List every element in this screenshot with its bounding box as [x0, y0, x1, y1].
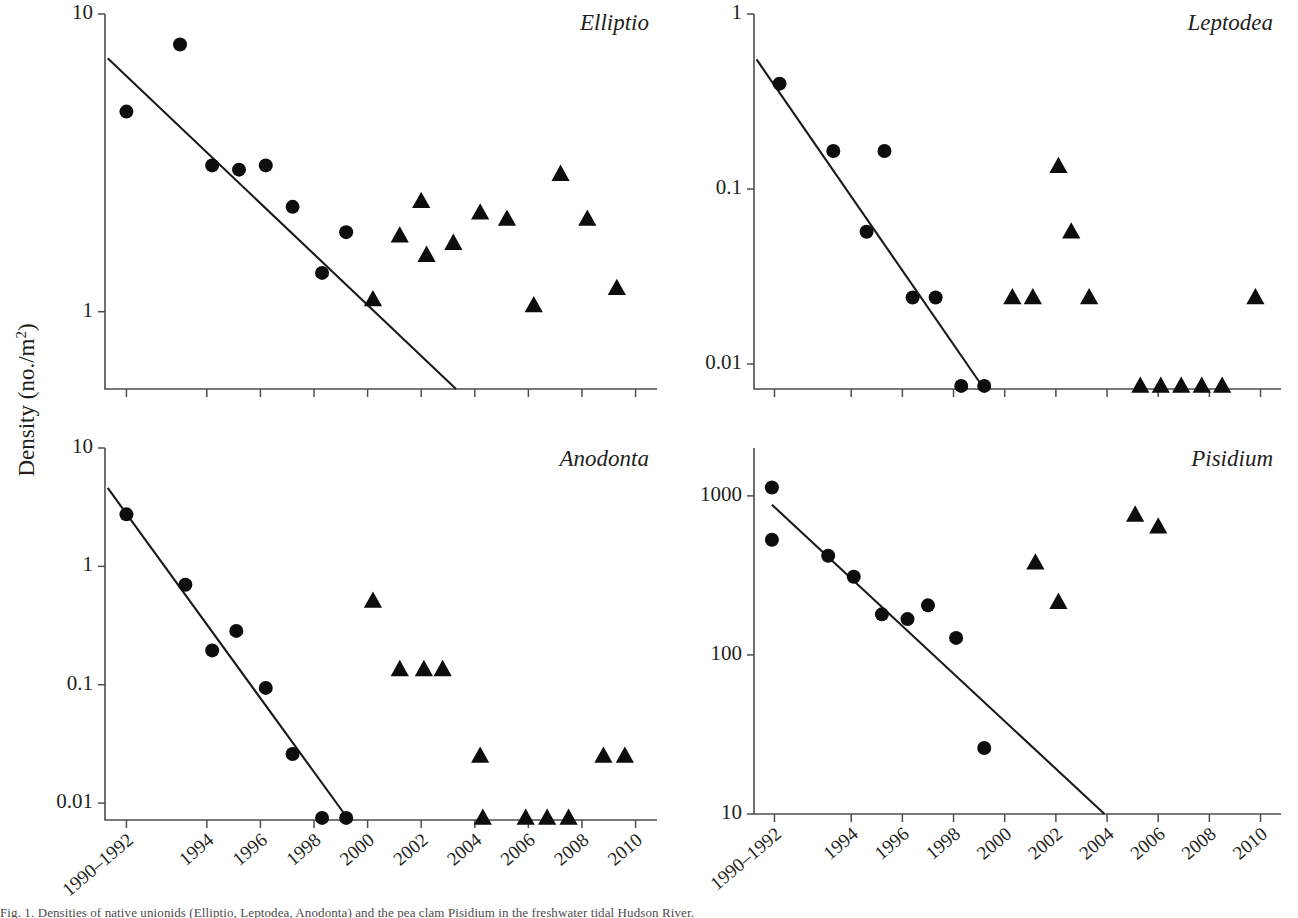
data-point-triangle [1152, 376, 1170, 392]
data-point-circle [173, 37, 187, 51]
data-point-triangle [538, 808, 556, 824]
data-point-circle [821, 549, 835, 563]
data-point-triangle [517, 808, 535, 824]
axis-lines [105, 448, 657, 820]
x-tick-label: 1990–1992 [706, 823, 785, 894]
y-tick-label: 0.01 [705, 350, 742, 374]
y-tick-label: 10 [721, 800, 742, 824]
axis-lines [754, 14, 1281, 389]
data-point-circle [339, 225, 353, 239]
data-point-triangle [1213, 376, 1231, 392]
panel-elliptio: 101Elliptio [72, 0, 657, 397]
x-tick-label: 2002 [1024, 823, 1067, 864]
y-tick-label: 1 [83, 298, 94, 322]
data-point-circle [259, 158, 273, 172]
y-tick-label: 10 [72, 434, 93, 458]
data-point-circle [977, 741, 991, 755]
data-point-triangle [525, 296, 543, 312]
data-point-circle [826, 144, 840, 158]
data-point-triangle [1049, 157, 1067, 173]
x-tick-label: 2004 [443, 829, 486, 870]
regression-line [772, 505, 1105, 814]
data-point-triangle [594, 747, 612, 763]
data-point-circle [765, 533, 779, 547]
data-point-triangle [1246, 288, 1264, 304]
data-point-triangle [471, 747, 489, 763]
data-point-circle [906, 290, 920, 304]
axis-lines [754, 448, 1281, 814]
data-point-triangle [364, 290, 382, 306]
data-point-triangle [415, 660, 433, 676]
data-point-circle [929, 290, 943, 304]
data-point-triangle [1149, 517, 1167, 533]
axis-lines [105, 14, 657, 389]
data-point-triangle [616, 747, 634, 763]
x-tick-label: 1990–1992 [58, 829, 137, 900]
data-point-triangle [1193, 376, 1211, 392]
x-tick-label: 2006 [1126, 823, 1169, 864]
x-tick-label: 2010 [1228, 823, 1271, 864]
panel-title: Elliptio [579, 10, 649, 35]
y-tick-label: 1000 [700, 482, 742, 506]
x-tick-label: 2008 [550, 829, 593, 870]
x-tick-label: 2000 [336, 829, 379, 870]
data-point-triangle [364, 591, 382, 607]
y-axis-title-superscript: 2 [13, 331, 29, 339]
data-point-circle [315, 811, 329, 825]
data-point-circle [232, 163, 246, 177]
data-point-triangle [391, 226, 409, 242]
data-point-triangle [551, 165, 569, 181]
data-point-triangle [434, 660, 452, 676]
panel-title: Anodonta [558, 446, 649, 471]
x-tick-label: 2010 [604, 829, 647, 870]
y-axis-title-close: ) [14, 323, 39, 331]
figure-root: 101Elliptio10.10.01Leptodea1010.10.01199… [0, 0, 1298, 918]
data-point-circle [229, 624, 243, 638]
data-point-triangle [559, 808, 577, 824]
data-point-triangle [608, 279, 626, 295]
x-tick-label: 2008 [1177, 823, 1220, 864]
data-point-circle [765, 480, 779, 494]
x-tick-label: 1994 [175, 829, 218, 870]
data-point-circle [205, 643, 219, 657]
data-point-circle [205, 158, 219, 172]
panel-title: Pisidium [1190, 446, 1273, 471]
data-point-circle [286, 747, 300, 761]
data-point-circle [954, 379, 968, 393]
data-point-circle [949, 631, 963, 645]
x-tick-label: 1996 [870, 823, 913, 864]
y-axis-title-main: Density (no./m [14, 338, 39, 476]
data-point-circle [900, 612, 914, 626]
data-point-circle [860, 225, 874, 239]
x-tick-label: 1994 [819, 823, 862, 864]
panel-title: Leptodea [1186, 10, 1273, 35]
panel-pisidium: 1000100101990–19921994199619982000200220… [700, 446, 1281, 894]
regression-line [757, 59, 985, 389]
data-point-circle [977, 379, 991, 393]
y-tick-label: 1 [732, 0, 743, 24]
y-tick-label: 10 [72, 0, 93, 24]
x-tick-label: 1998 [282, 829, 325, 870]
data-point-circle [315, 266, 329, 280]
y-axis-title: Density (no./m2) [13, 323, 39, 476]
y-axis-title-group: Density (no./m2) [13, 323, 39, 476]
data-point-triangle [471, 203, 489, 219]
data-point-circle [119, 507, 133, 521]
x-tick-label: 2000 [973, 823, 1016, 864]
regression-line [108, 488, 349, 820]
data-point-triangle [1062, 222, 1080, 238]
data-point-circle [921, 598, 935, 612]
data-point-circle [773, 77, 787, 91]
y-tick-label: 0.1 [716, 175, 742, 199]
data-point-circle [119, 105, 133, 119]
data-point-triangle [578, 209, 596, 225]
y-tick-label: 100 [711, 641, 743, 665]
x-tick-label: 2002 [389, 829, 432, 870]
panel-group: 101Elliptio10.10.01Leptodea1010.10.01199… [56, 0, 1281, 900]
x-tick-label: 2006 [496, 829, 539, 870]
data-point-triangle [417, 246, 435, 262]
y-tick-label: 0.01 [56, 789, 93, 813]
data-point-circle [178, 578, 192, 592]
data-point-triangle [391, 660, 409, 676]
data-point-triangle [474, 808, 492, 824]
